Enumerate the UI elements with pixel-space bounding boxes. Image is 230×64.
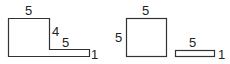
square-outline bbox=[127, 19, 167, 57]
composite-shape: 5 4 5 1 bbox=[9, 3, 99, 62]
thin-rectangle-shape: 5 1 bbox=[176, 35, 226, 62]
thin-rectangle-right-label: 1 bbox=[218, 47, 225, 62]
composite-top-label: 5 bbox=[25, 3, 32, 18]
composite-step-height-label: 4 bbox=[52, 24, 59, 39]
square-left-label: 5 bbox=[115, 30, 122, 45]
square-top-label: 5 bbox=[142, 3, 149, 18]
square-shape: 5 5 bbox=[115, 3, 167, 57]
composite-bottom-height-label: 1 bbox=[91, 47, 98, 62]
composite-step-width-label: 5 bbox=[62, 35, 69, 50]
composite-shape-outline bbox=[9, 19, 90, 57]
thin-rectangle-top-label: 5 bbox=[189, 35, 196, 50]
diagram-canvas: 5 4 5 1 5 5 5 1 bbox=[0, 0, 230, 64]
thin-rectangle-outline bbox=[176, 51, 215, 57]
